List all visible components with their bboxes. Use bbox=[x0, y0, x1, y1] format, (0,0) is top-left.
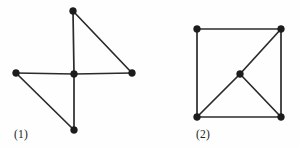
graph-vertex-right bbox=[129, 70, 136, 77]
graph-vertex-bottom bbox=[71, 127, 78, 134]
graph-vertex-left bbox=[13, 70, 20, 77]
graph-edge-left-to-bottom bbox=[16, 73, 74, 130]
graph-vertex-top bbox=[70, 8, 77, 15]
graph-vertex-top-left bbox=[194, 26, 201, 33]
graph-vertex-bottom-left bbox=[194, 114, 201, 121]
graph-vertex-top-right bbox=[278, 26, 285, 33]
figure-2-caption: (2) bbox=[196, 128, 210, 141]
graph-edge-center-to-top bbox=[73, 11, 74, 74]
graph-edge-diagonal-upper-half bbox=[240, 29, 281, 74]
graph-vertex-bottom-right bbox=[278, 114, 285, 121]
graph-edge-center-to-right bbox=[74, 73, 132, 74]
figure-board: (1)(2) bbox=[0, 0, 299, 148]
graph-vertex-center bbox=[71, 71, 78, 78]
graph-edge-top-to-right bbox=[73, 11, 132, 73]
graph-edge-center-to-bottom-right bbox=[240, 74, 281, 117]
graph-vertex-center bbox=[237, 71, 244, 78]
graph-edge-diagonal-lower-half bbox=[197, 74, 240, 117]
figure-1: (1) bbox=[13, 8, 136, 141]
figure-2: (2) bbox=[194, 26, 285, 141]
graph-edge-center-to-left bbox=[16, 73, 74, 74]
graph-diagram-canvas: (1)(2) bbox=[0, 0, 299, 148]
figure-1-caption: (1) bbox=[14, 128, 28, 141]
